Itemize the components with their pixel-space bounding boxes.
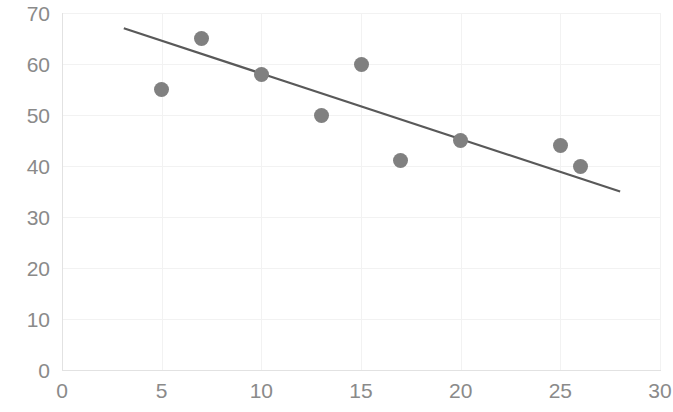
x-tick-label: 25 <box>549 380 572 401</box>
y-tick-label: 10 <box>27 309 50 330</box>
y-tick-label: 40 <box>27 156 50 177</box>
data-point <box>553 138 568 153</box>
plot-area <box>62 13 660 370</box>
x-axis-line <box>62 370 661 371</box>
y-tick-label: 50 <box>27 105 50 126</box>
data-point <box>573 159 588 174</box>
x-tick-label: 30 <box>648 380 671 401</box>
y-tick-label: 30 <box>27 207 50 228</box>
data-point <box>314 108 329 123</box>
gridline-vertical <box>660 13 661 370</box>
x-tick-label: 0 <box>56 380 68 401</box>
y-tick-label: 20 <box>27 258 50 279</box>
y-tick-label: 70 <box>27 3 50 24</box>
x-tick-label: 20 <box>449 380 472 401</box>
x-tick-label: 10 <box>250 380 273 401</box>
y-axis-tick-labels: 010203040506070 <box>0 0 50 412</box>
x-tick-label: 15 <box>349 380 372 401</box>
y-axis-line <box>62 13 63 371</box>
y-tick-label: 60 <box>27 54 50 75</box>
scatter-chart: 010203040506070 051015202530 <box>0 0 673 412</box>
data-point <box>194 31 209 46</box>
trendline-segment <box>124 28 620 191</box>
data-point <box>254 67 269 82</box>
y-tick-label: 0 <box>38 360 50 381</box>
x-tick-label: 5 <box>156 380 168 401</box>
data-point <box>354 57 369 72</box>
